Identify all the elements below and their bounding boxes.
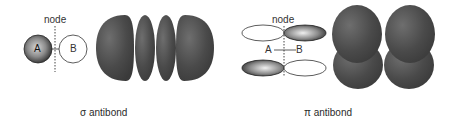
sigma-caption: σ antibond — [80, 108, 127, 118]
pi-orbital-rendering — [332, 5, 435, 89]
pi-node-label: node — [272, 15, 294, 25]
sigma-orbital-rendering — [96, 15, 214, 81]
orbital-figure: node A B σ antibond node A B π antibond — [0, 0, 454, 128]
pi-caption: π antibond — [304, 108, 352, 118]
sigma-atom-b-label: B — [70, 44, 77, 54]
pi-blob-top-left — [332, 5, 382, 63]
pi-atom-b-label: B — [296, 45, 303, 55]
pi-blob-top-right — [385, 5, 435, 63]
pi-atom-a-label: A — [265, 45, 272, 55]
sigma-lobe-4 — [176, 15, 214, 81]
sigma-lobe-2 — [135, 15, 155, 81]
sigma-lobe-1 — [96, 15, 134, 81]
pi-lobe-top-right — [284, 25, 326, 41]
pi-lobe-bottom-right — [284, 60, 326, 76]
sigma-node-label: node — [44, 15, 66, 25]
pi-schematic — [242, 25, 326, 76]
pi-lobe-bottom-left — [242, 60, 284, 76]
pi-lobe-top-left — [242, 25, 284, 41]
sigma-atom-a-label: A — [34, 44, 41, 54]
sigma-lobe-3 — [156, 15, 176, 81]
orbital-diagram-graphics — [0, 0, 454, 128]
